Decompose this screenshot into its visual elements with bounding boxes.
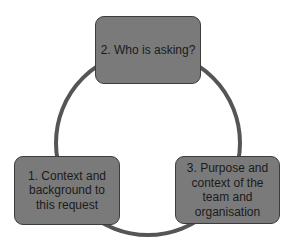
step-2-label: 2. Who is asking? bbox=[101, 43, 196, 58]
step-3-label: 3. Purpose and context of the team and o… bbox=[182, 161, 273, 219]
step-2-box: 2. Who is asking? bbox=[95, 16, 201, 84]
step-1-box: 1. Context and background to this reques… bbox=[14, 156, 120, 225]
step-3-box: 3. Purpose and context of the team and o… bbox=[175, 156, 280, 224]
step-1-label: 1. Context and background to this reques… bbox=[21, 169, 113, 213]
